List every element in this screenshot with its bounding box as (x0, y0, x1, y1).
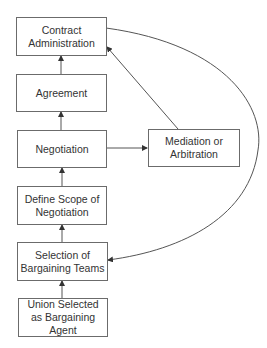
node-label: Agreement (36, 87, 87, 100)
node-label: Selection of Bargaining Teams (20, 249, 105, 275)
node-mediation-or-arbitration: Mediation or Arbitration (148, 129, 240, 167)
node-label: Define Scope of Negotiation (20, 193, 104, 219)
arrow-mediation-to-contract (107, 47, 178, 129)
node-label: Contract Administration (27, 24, 97, 50)
node-agreement: Agreement (16, 74, 107, 112)
node-label: Union Selected as Bargaining Agent (21, 298, 105, 337)
node-negotiation: Negotiation (17, 130, 107, 168)
node-union-selected: Union Selected as Bargaining Agent (18, 298, 108, 337)
node-contract-administration: Contract Administration (16, 17, 107, 56)
collective-bargaining-flowchart: Contract Administration Agreement Negoti… (0, 0, 267, 348)
node-define-scope: Define Scope of Negotiation (17, 186, 107, 225)
node-label: Mediation or Arbitration (159, 135, 229, 161)
node-label: Negotiation (35, 143, 88, 156)
node-selection-of-bargaining-teams: Selection of Bargaining Teams (17, 242, 108, 281)
